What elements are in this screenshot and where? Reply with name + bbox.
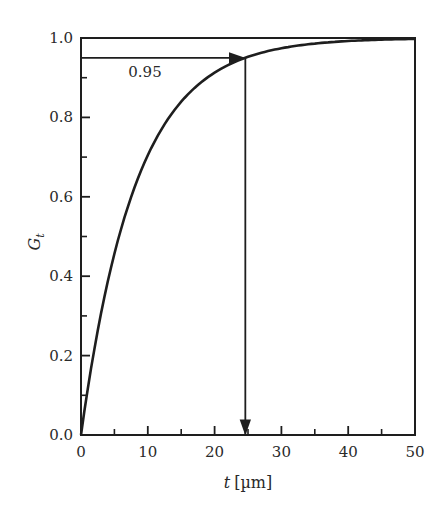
y-tick-label: 0.0 — [49, 426, 73, 444]
x-axis-label-unit: [µm] — [234, 473, 272, 492]
x-tick-label: 0 — [76, 443, 86, 461]
x-axis-label: t[µm] — [224, 473, 273, 492]
annotations: 0.95 — [81, 58, 245, 434]
x-tick-label: 40 — [339, 443, 358, 461]
plot-frame — [81, 38, 415, 435]
x-tick-label: 30 — [272, 443, 291, 461]
y-axis-label-sub: t — [34, 233, 47, 238]
x-tick-label: 10 — [138, 443, 157, 461]
y-tick-label: 1.0 — [49, 29, 73, 47]
x-tick-label: 20 — [205, 443, 224, 461]
y-tick-label: 0.2 — [49, 347, 73, 365]
axes-box — [81, 38, 415, 435]
y-tick-label: 0.6 — [49, 188, 73, 206]
threshold-label: 0.95 — [128, 63, 161, 81]
y-axis-ticks: 0.00.20.40.60.81.0 — [49, 29, 90, 444]
x-tick-label: 50 — [405, 443, 424, 461]
x-axis-ticks: 01020304050 — [76, 426, 424, 461]
y-axis-label: Gt — [25, 233, 47, 251]
y-tick-label: 0.4 — [49, 267, 73, 285]
chart: 01020304050 0.00.20.40.60.81.0 0.95 t[µm… — [0, 0, 441, 510]
data-curve — [81, 39, 415, 435]
x-axis-label-symbol: t — [224, 473, 231, 492]
y-axis-label-main: G — [25, 238, 44, 251]
y-tick-label: 0.8 — [49, 108, 73, 126]
